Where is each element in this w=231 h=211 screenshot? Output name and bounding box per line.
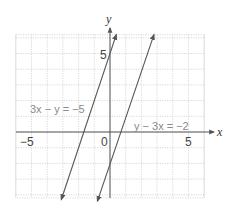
y-axis-label: y: [105, 12, 112, 26]
x-tick-neg5: −5: [20, 135, 34, 149]
equation-label-1: 3x − y = −5: [30, 103, 85, 115]
x-tick-5: 5: [185, 135, 192, 149]
coordinate-plane: x y −5 0 5 5 3x − y = −5 y − 3x = −2: [0, 0, 231, 211]
equation-label-2: y − 3x = −2: [134, 120, 189, 132]
line-series: [61, 35, 154, 201]
graph-line-1: [61, 35, 116, 200]
y-tick-5: 5: [100, 48, 107, 62]
x-axis-label: x: [216, 125, 223, 139]
origin-label: 0: [101, 135, 108, 149]
